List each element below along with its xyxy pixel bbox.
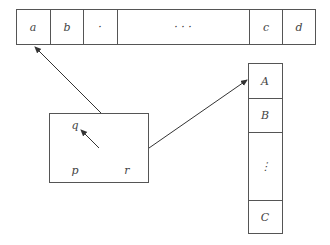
cell-label-A: A [261, 75, 269, 88]
diagram-canvas [0, 0, 330, 245]
cell-label-ellipsis: · · · [174, 21, 191, 34]
top-array [17, 10, 316, 45]
cell-label-a: a [30, 21, 37, 34]
cell-label-c: c [263, 21, 269, 34]
node-label-p: p [71, 164, 78, 177]
right-array [249, 64, 283, 234]
cell-label-vdots: ⋮ [260, 160, 271, 173]
cell-label-dot: · [98, 21, 102, 34]
cell-label-b: b [63, 21, 70, 34]
node-label-r: r [124, 164, 129, 177]
arrow-center-to-q [81, 130, 99, 148]
arrow-box-to-A [149, 80, 247, 148]
node-label-q: q [71, 119, 78, 132]
arrow-box-to-a [35, 47, 101, 113]
cell-label-C: C [261, 211, 269, 224]
cell-label-d: d [295, 21, 302, 34]
cell-label-B: B [261, 109, 269, 122]
